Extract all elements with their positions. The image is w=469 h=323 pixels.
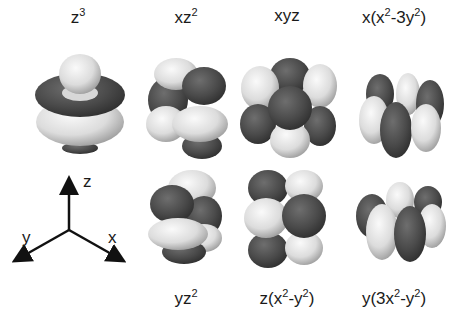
label-y-3x2-y2: y(3x2-y2)	[334, 287, 454, 309]
label-sup: 2	[191, 6, 197, 18]
label-text: z	[71, 8, 80, 27]
label-text: -y	[400, 289, 414, 308]
orbital-z3	[20, 40, 138, 160]
label-text: y(3x	[362, 289, 394, 308]
orbital-z-x2-y2	[240, 168, 330, 268]
axis-label-z: z	[83, 172, 92, 192]
label-sup: 3	[79, 6, 85, 18]
orbital-x-x2-3y2	[350, 72, 450, 164]
label-z3: z3	[18, 6, 138, 28]
label-text: yz	[174, 289, 191, 308]
orbital-xz2	[132, 52, 232, 162]
label-text: -y	[288, 289, 302, 308]
axis-label-x: x	[108, 228, 117, 248]
label-text: x(x	[362, 8, 385, 27]
orbital-y-3x2-y2	[348, 180, 448, 270]
label-text: )	[309, 289, 315, 308]
label-text: )	[420, 289, 426, 308]
orbital-xyz	[238, 54, 338, 160]
label-text: xyz	[274, 6, 300, 25]
label-sup: 2	[191, 287, 197, 299]
coordinate-axes	[10, 170, 130, 270]
label-z-x2-y2: z(x2-y2)	[227, 287, 347, 309]
label-text: xz	[174, 8, 191, 27]
axis-label-y: y	[22, 228, 31, 248]
label-text: z(x	[260, 289, 283, 308]
orbital-yz2	[138, 166, 233, 266]
label-text: )	[420, 8, 426, 27]
label-text: -3y	[391, 8, 415, 27]
label-x-x2-3y2: x(x2-3y2)	[334, 6, 454, 28]
label-xyz: xyz	[227, 6, 347, 26]
